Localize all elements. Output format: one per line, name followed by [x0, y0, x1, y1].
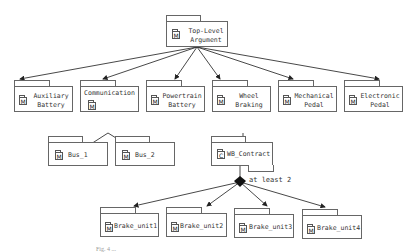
node-label: AuxiliaryBattery: [29, 92, 73, 110]
figure-caption: Fig. 4 ...: [96, 246, 116, 252]
module-icon: M: [239, 225, 247, 233]
node-label: PowertrainBattery: [159, 92, 205, 110]
module-icon: M: [217, 97, 225, 105]
node-label: Brake_unit3: [249, 223, 292, 232]
node-label: Top-LevelArgument: [184, 27, 228, 45]
module-icon: M: [307, 226, 315, 234]
multiplicity-note: at least 2: [249, 176, 291, 184]
module-icon: M: [171, 224, 179, 232]
node-label: Brake_unit4: [317, 224, 360, 233]
module-icon: M: [349, 97, 357, 105]
contract-icon: C: [217, 151, 225, 159]
module-icon: M: [105, 224, 113, 232]
node-label: Brake_unit2: [180, 222, 223, 231]
node-label: ElectronicPedal: [357, 92, 403, 110]
module-icon: M: [19, 97, 27, 105]
node-label: Bus_2: [135, 151, 155, 160]
contract-tab-bottom: [248, 165, 274, 172]
node-label: Communication: [82, 89, 137, 98]
module-icon: M: [172, 31, 180, 39]
node-label: Brake_unit1: [114, 222, 157, 231]
node-label: Bus_1: [68, 151, 88, 160]
module-icon: M: [122, 152, 130, 160]
node-label: WB_Contract: [227, 150, 270, 159]
module-icon: M: [55, 152, 63, 160]
module-icon: M: [88, 102, 96, 110]
module-icon: M: [151, 97, 159, 105]
node-label: MechanicalPedal: [291, 92, 337, 110]
node-label: WheelBraking: [227, 92, 271, 110]
module-icon: M: [283, 97, 291, 105]
